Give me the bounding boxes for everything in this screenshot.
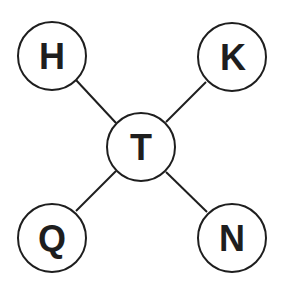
node-k-label: K xyxy=(220,37,246,78)
node-n: N xyxy=(198,204,266,272)
node-h-label: H xyxy=(39,36,65,77)
edge-t-h xyxy=(76,80,116,123)
node-t-label: T xyxy=(130,127,152,168)
node-q: Q xyxy=(18,204,86,272)
node-n-label: N xyxy=(219,218,245,259)
star-diagram: H K T Q N xyxy=(0,0,283,297)
edge-t-q xyxy=(76,171,116,211)
node-q-label: Q xyxy=(38,218,66,259)
node-k: K xyxy=(198,23,266,91)
node-t: T xyxy=(107,113,175,181)
edge-t-n xyxy=(166,172,207,212)
node-h: H xyxy=(18,22,86,90)
edge-t-k xyxy=(166,82,206,122)
